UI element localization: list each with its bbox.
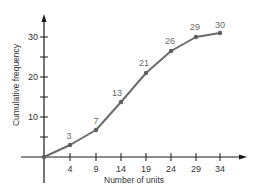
point-label: 30	[215, 20, 225, 30]
x-tick-label: 29	[191, 164, 201, 174]
data-point	[119, 100, 123, 104]
y-axis-title: Cumulative frequency	[11, 43, 21, 126]
x-axis-title: Number of units	[104, 175, 164, 185]
x-tick-label: 34	[215, 164, 225, 174]
point-label: 13	[112, 88, 122, 98]
x-axis-arrow-icon	[239, 155, 247, 160]
y-tick-label: 10	[28, 112, 38, 122]
y-tick-labels: 10 20 30	[28, 32, 38, 122]
data-point	[218, 31, 222, 35]
point-labels: 3 7 13 21 26 29 30	[66, 20, 225, 141]
x-tick-label: 24	[166, 164, 176, 174]
data-point	[68, 143, 72, 147]
y-axis-arrow-icon	[42, 14, 47, 22]
x-tick-labels: 4 9 14 19 24 29 34	[67, 164, 225, 174]
point-label: 29	[190, 22, 200, 32]
cumulative-frequency-chart: 10 20 30 4 9 14 19 24 29 34 Number of un…	[0, 0, 255, 195]
y-tick-label: 30	[28, 32, 38, 42]
axes	[21, 14, 247, 183]
point-label: 7	[93, 116, 98, 126]
x-tick-label: 14	[116, 164, 126, 174]
data-point	[169, 49, 173, 53]
point-label: 26	[165, 36, 175, 46]
x-tick-label: 4	[67, 164, 72, 174]
y-tick-label: 20	[28, 72, 38, 82]
data-point	[194, 35, 198, 39]
data-point	[94, 128, 98, 132]
point-label: 3	[66, 131, 71, 141]
data-point	[42, 155, 46, 159]
x-tick-label: 9	[93, 164, 98, 174]
point-label: 21	[139, 58, 149, 68]
data-point	[144, 71, 148, 75]
x-tick-label: 19	[141, 164, 151, 174]
